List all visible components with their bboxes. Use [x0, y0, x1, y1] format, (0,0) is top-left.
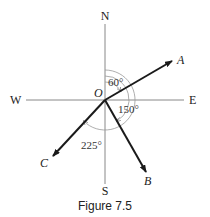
vector-c-label: C [40, 156, 49, 170]
vector-a-label: A [176, 53, 185, 67]
origin-label: O [94, 86, 103, 100]
east-label: E [189, 93, 196, 107]
south-label: S [102, 184, 109, 198]
figure-caption: Figure 7.5 [78, 199, 132, 213]
angle-225-label: 225° [81, 139, 102, 151]
bearing-diagram: N S E W O A B C 60° 150° 225° Figure 7.5 [0, 0, 210, 217]
north-label: N [101, 9, 110, 23]
west-label: W [10, 93, 22, 107]
angle-60-label: 60° [108, 76, 123, 88]
angle-150-label: 150° [118, 103, 139, 115]
vector-b-label: B [144, 174, 152, 188]
